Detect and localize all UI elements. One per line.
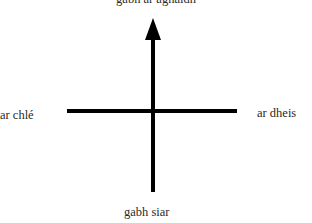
label-right: ar dheis [257, 106, 296, 120]
up-arrowhead-icon [145, 18, 161, 40]
label-back: gabh siar [124, 205, 169, 219]
label-forward: gabh ar aghaidh [116, 0, 196, 6]
label-left: ar chlé [0, 108, 34, 122]
